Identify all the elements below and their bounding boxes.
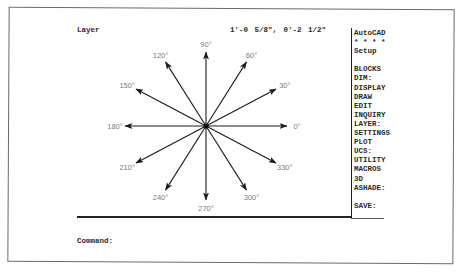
screen-menu-item[interactable]: DIM: xyxy=(354,74,390,83)
menu-bottom-border xyxy=(351,218,384,219)
screen-menu-item[interactable]: AutoCAD xyxy=(354,29,390,38)
angle-label: 300° xyxy=(244,193,260,202)
angle-label: 90° xyxy=(200,40,211,49)
screen-menu-item xyxy=(354,193,390,202)
arrow-150-deg xyxy=(136,89,206,126)
screen-menu-item[interactable]: PLOT xyxy=(354,138,390,147)
angle-label: 30° xyxy=(279,81,290,90)
angle-label: 270° xyxy=(198,204,214,213)
screen-menu-item[interactable]: EDIT xyxy=(354,102,390,111)
screen-menu: AutoCAD* * * *Setup BLOCKSDIM:DISPLAYDRA… xyxy=(354,29,390,211)
command-prompt[interactable]: Command: xyxy=(77,237,113,245)
screen-menu-item[interactable]: DRAW xyxy=(354,93,390,102)
arrow-210-deg xyxy=(136,126,206,163)
screen-menu-item[interactable]: INQUIRY xyxy=(354,111,390,120)
screen-menu-item[interactable]: Setup xyxy=(354,47,390,56)
drawing-area-bottom-border xyxy=(77,216,352,218)
screen-menu-item[interactable]: MACROS xyxy=(354,165,390,174)
angle-label: 330° xyxy=(277,163,293,172)
arrow-240-deg xyxy=(166,126,207,190)
angle-label: 180° xyxy=(107,122,123,131)
screen-menu-item[interactable]: LAYER: xyxy=(354,120,390,129)
screen-menu-item[interactable]: SETTINGS xyxy=(354,129,390,138)
screen-menu-item xyxy=(354,56,390,65)
arrow-60-deg xyxy=(206,62,247,126)
screen-menu-item[interactable]: 3D xyxy=(354,175,390,184)
screen-menu-item[interactable]: * * * * xyxy=(354,38,390,47)
arrow-30-deg xyxy=(206,89,276,126)
angle-label: 120° xyxy=(153,51,169,60)
origin-point xyxy=(203,123,208,128)
drawing-area[interactable]: 0°30°60°90°120°150°180°210°240°270°300°3… xyxy=(0,0,461,274)
screen-menu-divider xyxy=(351,28,352,218)
angle-label: 210° xyxy=(119,163,135,172)
screen-menu-item[interactable]: UCS: xyxy=(354,147,390,156)
screen-menu-item[interactable]: BLOCKS xyxy=(354,65,390,74)
arrow-330-deg xyxy=(206,126,276,163)
angle-label: 0° xyxy=(293,122,300,131)
arrow-120-deg xyxy=(166,62,207,126)
angle-label: 60° xyxy=(246,51,257,60)
screen-menu-item[interactable]: SAVE: xyxy=(354,202,390,211)
screen-menu-item[interactable]: DISPLAY xyxy=(354,84,390,93)
angle-label: 240° xyxy=(153,193,169,202)
arrow-300-deg xyxy=(206,126,247,190)
screen-menu-item[interactable]: UTILITY xyxy=(354,156,390,165)
screen-menu-item[interactable]: ASHADE: xyxy=(354,184,390,193)
angle-label: 150° xyxy=(119,81,135,90)
